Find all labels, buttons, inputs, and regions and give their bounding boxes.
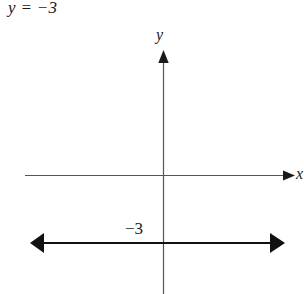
x-axis-label: x [296, 165, 303, 183]
graph-svg [0, 0, 304, 294]
x-axis-arrowhead [283, 171, 295, 181]
coordinate-plane [0, 0, 304, 294]
graph-line-right-arrowhead [270, 233, 285, 253]
graph-line-y-equals-neg3 [30, 233, 285, 253]
x-axis [25, 171, 295, 181]
graph-line-left-arrowhead [30, 233, 44, 253]
line-value-label: −3 [125, 219, 143, 239]
y-axis-label: y [156, 26, 163, 44]
figure-page: ) y = −3 y x −3 [0, 0, 304, 294]
y-axis-arrowhead [158, 50, 168, 63]
y-axis [158, 50, 168, 294]
